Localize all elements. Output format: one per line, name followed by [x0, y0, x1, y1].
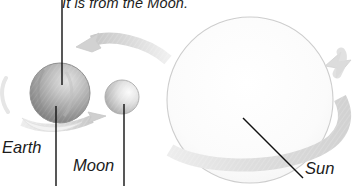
earth-body	[30, 63, 90, 123]
earth-rotation-arrowhead	[88, 112, 106, 123]
caption-it-is-from-the-moon: It is from the Moon.	[62, 0, 188, 11]
earth-orbit-arrow-texture	[92, 38, 168, 60]
astronomy-diagram-canvas	[0, 0, 356, 186]
orbit-arc-fragment-left	[2, 78, 8, 112]
earth-orbit-arrowhead	[76, 33, 101, 52]
label-moon: Moon	[73, 157, 114, 174]
sun-orbit-arrow-tail	[337, 52, 342, 74]
moon-texture	[105, 80, 139, 114]
label-earth: Earth	[2, 139, 41, 156]
label-sun: Sun	[305, 160, 334, 177]
earth-orbit-arrow-left	[76, 33, 168, 60]
figure-root: It is from the Moon. Earth Moon Sun	[0, 0, 356, 186]
moon-body	[105, 80, 139, 114]
